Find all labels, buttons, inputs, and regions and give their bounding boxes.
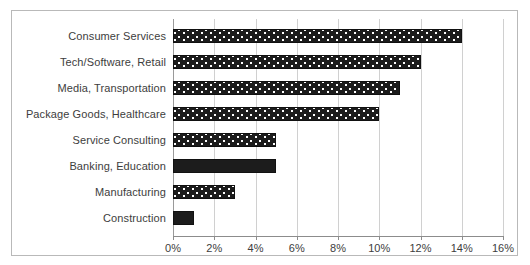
category-label: Construction (103, 212, 166, 224)
chart-title (14, 0, 514, 2)
x-tick-label: 0% (165, 242, 181, 254)
chart-frame: Consumer ServicesTech/Software, RetailMe… (11, 10, 518, 256)
bar[interactable] (173, 55, 421, 69)
bar[interactable] (173, 159, 276, 173)
x-tick (173, 236, 174, 240)
bar-row: Media, Transportation (173, 75, 504, 101)
category-label: Manufacturing (95, 186, 166, 198)
x-tick (462, 236, 463, 240)
x-tick (297, 236, 298, 240)
bar-row: Tech/Software, Retail (173, 49, 504, 75)
x-tick-label: 6% (289, 242, 305, 254)
bar-row: Manufacturing (173, 179, 504, 205)
x-tick-label: 2% (206, 242, 222, 254)
x-tick-label: 16% (492, 242, 514, 254)
category-label: Tech/Software, Retail (60, 56, 166, 68)
category-label: Banking, Education (69, 160, 166, 172)
x-tick-label: 12% (409, 242, 431, 254)
bar-row: Package Goods, Healthcare (173, 101, 504, 127)
x-tick (338, 236, 339, 240)
category-label: Package Goods, Healthcare (26, 108, 166, 120)
bar[interactable] (173, 133, 276, 147)
bar-rows: Consumer ServicesTech/Software, RetailMe… (173, 19, 504, 236)
bar[interactable] (173, 81, 400, 95)
bar-row: Consumer Services (173, 23, 504, 49)
x-tick (379, 236, 380, 240)
category-label: Consumer Services (68, 30, 166, 42)
category-label: Service Consulting (72, 134, 166, 146)
bar[interactable] (173, 211, 194, 225)
bar[interactable] (173, 29, 462, 43)
x-tick-label: 14% (451, 242, 473, 254)
bar[interactable] (173, 107, 379, 121)
plot-area: Consumer ServicesTech/Software, RetailMe… (173, 19, 504, 236)
x-tick-label: 8% (330, 242, 346, 254)
x-tick (256, 236, 257, 240)
x-tick (421, 236, 422, 240)
x-tick-label: 4% (248, 242, 264, 254)
bar-row: Banking, Education (173, 153, 504, 179)
x-axis: 0%2%4%6%8%10%12%14%16% (173, 236, 504, 258)
category-label: Media, Transportation (58, 82, 167, 94)
bar[interactable] (173, 185, 235, 199)
x-tick (214, 236, 215, 240)
x-tick (503, 236, 504, 240)
bar-row: Service Consulting (173, 127, 504, 153)
x-tick-label: 10% (368, 242, 390, 254)
bar-row: Construction (173, 205, 504, 231)
